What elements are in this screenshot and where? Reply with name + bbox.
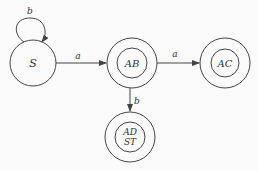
state-adst: AD ST: [105, 112, 155, 162]
state-ab: AB: [107, 38, 157, 88]
transition-ab-to-ac: a: [157, 49, 199, 63]
state-s-label: S: [29, 57, 37, 70]
state-diagram: b S a AB a AC b AD ST: [0, 0, 258, 171]
loop-label: b: [27, 6, 33, 16]
transition-s-to-ab: a: [56, 51, 106, 63]
transition-s-self-loop: b: [16, 6, 45, 42]
transition-ab-to-adst: b: [130, 88, 140, 111]
transition-label: a: [75, 51, 80, 61]
transition-label: b: [134, 96, 140, 106]
transition-label: a: [172, 49, 177, 59]
state-ac: AC: [200, 38, 250, 88]
state-adst-label-line1: AD: [122, 127, 137, 137]
state-s: S: [10, 40, 56, 86]
state-adst-label-line2: ST: [124, 137, 137, 147]
state-ac-label: AC: [217, 58, 233, 69]
state-ab-label: AB: [124, 58, 140, 69]
